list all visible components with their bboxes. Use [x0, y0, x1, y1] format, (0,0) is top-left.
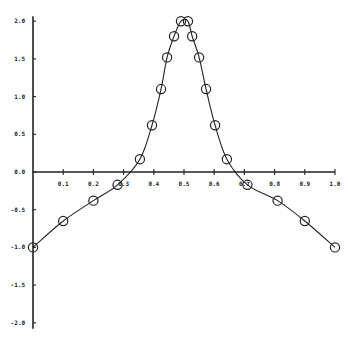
- x-tick-label: 0.6: [209, 180, 220, 187]
- x-tick-label: 0.4: [148, 180, 159, 187]
- data-series: [28, 17, 339, 252]
- y-tick-label: 2.0: [14, 17, 25, 24]
- x-tick-label: 0.2: [88, 180, 99, 187]
- y-tick-label: 0.5: [14, 130, 25, 137]
- y-tick-label: -2.0: [11, 319, 26, 326]
- y-tick-label: 1.5: [14, 55, 25, 62]
- x-tick-label: 1.0: [330, 180, 341, 187]
- x-tick-label: 0.1: [58, 180, 69, 187]
- y-tick-label: 0.0: [14, 168, 25, 175]
- x-tick-label: 0.9: [299, 180, 310, 187]
- x-tick-label: 0.5: [179, 180, 190, 187]
- line-chart: 0.10.20.30.40.50.60.70.80.91.02.01.51.00…: [0, 0, 357, 343]
- y-tick-label: -1.0: [11, 243, 26, 250]
- series-line: [33, 19, 335, 247]
- x-tick-label: 0.8: [269, 180, 280, 187]
- y-tick-label: 1.0: [14, 93, 25, 100]
- y-tick-label: -1.5: [11, 281, 26, 288]
- y-tick-label: -0.5: [11, 206, 26, 213]
